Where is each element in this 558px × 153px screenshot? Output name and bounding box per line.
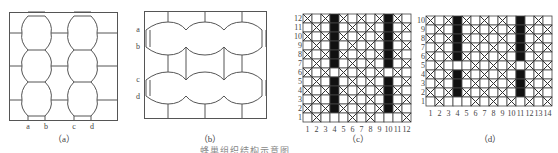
column-label: 12 bbox=[400, 126, 413, 134]
edge-label-d: d bbox=[134, 93, 142, 101]
weave-grid-d bbox=[420, 0, 558, 153]
panel-a: a b c d （a） bbox=[0, 0, 140, 153]
edge-label-b: b bbox=[41, 123, 51, 131]
row-label: 7 bbox=[415, 44, 425, 52]
edge-label-c: c bbox=[134, 76, 142, 84]
row-label: 6 bbox=[415, 53, 425, 61]
row-label: 7 bbox=[292, 60, 302, 68]
row-label: 11 bbox=[292, 24, 302, 32]
row-label: 2 bbox=[292, 105, 302, 113]
edge-label-c: c bbox=[69, 123, 79, 131]
row-label: 10 bbox=[415, 17, 425, 25]
row-label: 2 bbox=[415, 89, 425, 97]
row-label: 8 bbox=[292, 51, 302, 59]
edge-label-a: a bbox=[134, 26, 142, 34]
row-label: 12 bbox=[292, 15, 302, 23]
panel-c: 121110987654321 123456789101112 （c） bbox=[290, 0, 425, 153]
row-label: 1 bbox=[292, 114, 302, 122]
row-label: 4 bbox=[415, 71, 425, 79]
row-label: 9 bbox=[292, 42, 302, 50]
row-label: 5 bbox=[292, 78, 302, 86]
row-label: 1 bbox=[415, 98, 425, 106]
row-label: 4 bbox=[292, 87, 302, 95]
row-label: 8 bbox=[415, 35, 425, 43]
edge-label-d: d bbox=[87, 123, 97, 131]
row-label: 3 bbox=[292, 96, 302, 104]
row-label: 9 bbox=[415, 26, 425, 34]
column-label: 14 bbox=[541, 110, 554, 118]
panel-d: 10987654321 1234567891011121314 （d） bbox=[420, 0, 558, 153]
figure-caption: 蜂巢组织结构示意图 bbox=[200, 144, 400, 153]
caption-a: （a） bbox=[44, 132, 84, 145]
panel-b: a b c d （b） bbox=[140, 0, 290, 153]
row-label: 5 bbox=[415, 62, 425, 70]
row-label: 3 bbox=[415, 80, 425, 88]
hexagon-mesh-b bbox=[140, 0, 290, 153]
edge-label-b: b bbox=[134, 43, 142, 51]
row-label: 6 bbox=[292, 69, 302, 77]
edge-label-a: a bbox=[23, 123, 33, 131]
caption-d: （d） bbox=[470, 132, 510, 145]
row-label: 10 bbox=[292, 33, 302, 41]
